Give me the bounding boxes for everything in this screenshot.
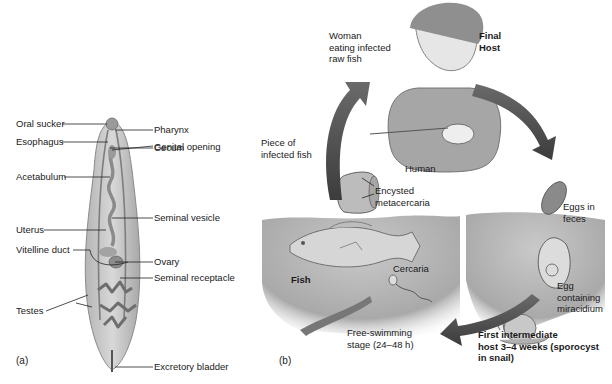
label-free-swimming-stage: Free-swimming stage (24–48 h) — [347, 327, 414, 350]
label-first-intermediate-host: First intermediate host 3–4 weeks (sporo… — [478, 329, 599, 364]
label-acetabulum: Acetabulum — [16, 171, 66, 183]
life-cycle-artwork — [0, 0, 612, 384]
label-esophagus: Esophagus — [16, 136, 64, 148]
label-uterus: Uterus — [16, 224, 44, 236]
label-encysted-metacercaria: Encysted metacercaria — [375, 185, 430, 208]
label-human: Human — [405, 163, 436, 175]
caption-a: (a) — [16, 355, 28, 367]
label-woman-eating: Woman eating infected raw fish — [329, 30, 391, 65]
label-vitelline-duct: Vitelline duct — [16, 244, 70, 256]
label-egg-containing-miracidium: Egg containing miracidium — [557, 280, 603, 315]
label-fish: Fish — [291, 274, 311, 286]
label-cercaria: Cercaria — [393, 263, 429, 275]
fluke-body-illustration — [85, 118, 140, 372]
label-oral-sucker: Oral sucker — [16, 118, 65, 130]
label-testes: Testes — [16, 305, 43, 317]
label-genital-opening: Genital opening — [154, 141, 221, 153]
label-final-host: Final Host — [479, 30, 501, 53]
label-seminal-vesicle: Seminal vesicle — [154, 212, 220, 224]
label-pharynx: Pharynx — [154, 124, 189, 136]
fish-piece-illustration — [337, 172, 379, 213]
label-piece-of-infected-fish: Piece of infected fish — [261, 137, 312, 160]
caption-b: (b) — [279, 355, 291, 367]
label-excretory-bladder: Excretory bladder — [154, 361, 228, 373]
label-ovary: Ovary — [154, 256, 179, 268]
label-seminal-receptacle: Seminal receptacle — [154, 272, 235, 284]
label-eggs-in-feces: Eggs in feces — [563, 201, 595, 224]
